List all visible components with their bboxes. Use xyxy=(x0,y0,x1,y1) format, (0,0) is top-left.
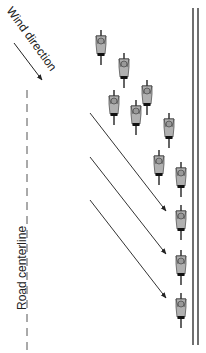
drift-arrow xyxy=(90,200,166,298)
cyclist-icon xyxy=(164,113,174,148)
road-edge-lines xyxy=(193,8,198,345)
cyclist-icon xyxy=(176,205,186,240)
diagram-canvas xyxy=(0,0,206,353)
cyclist-icon xyxy=(154,150,164,185)
cyclist-icon xyxy=(119,53,129,88)
cyclist-icon xyxy=(96,30,106,65)
cyclist-icon xyxy=(131,100,141,135)
cyclist-icon xyxy=(176,162,186,197)
road-centerline-label: Road centerline xyxy=(15,226,29,310)
cyclist-icon xyxy=(142,80,152,115)
cyclist-icon xyxy=(176,293,186,328)
cyclist-icon xyxy=(109,90,119,125)
drift-arrows xyxy=(90,113,166,298)
cyclist-icon xyxy=(176,250,186,285)
